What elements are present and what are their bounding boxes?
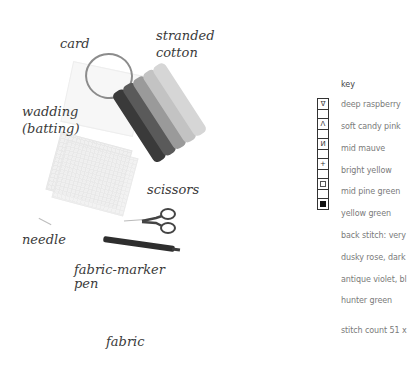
key-title: key xyxy=(341,80,355,89)
fabric-marker-pen-illustration xyxy=(103,236,175,252)
label-cotton: cotton xyxy=(156,45,198,60)
symbol-filled-square-icon xyxy=(318,199,328,209)
key-symbol-column: ∇ Λ И + xyxy=(317,98,329,210)
key-spacer xyxy=(318,130,328,139)
key-backstitch-3: antique violet, bl xyxy=(341,275,407,284)
label-scissors: scissors xyxy=(147,182,199,197)
key-backstitch-2: dusky rose, dark xyxy=(341,253,405,262)
label-pen: pen xyxy=(74,276,98,291)
key-item-yellow-green: yellow green xyxy=(341,209,391,218)
key-backstitch-4: hunter green xyxy=(341,296,392,305)
key-spacer xyxy=(318,110,328,119)
stitch-count: stitch count 51 x xyxy=(341,326,407,335)
label-stranded: stranded xyxy=(156,28,215,43)
label-fabric: fabric xyxy=(106,334,145,349)
symbol-box-icon xyxy=(318,179,328,190)
label-fabric-marker: fabric-marker xyxy=(74,262,165,277)
key-backstitch-1: back stitch: very xyxy=(341,231,406,240)
key-spacer xyxy=(318,190,328,199)
label-card: card xyxy=(60,36,90,51)
key-item-bright-yellow: bright yellow xyxy=(341,166,392,175)
label-batting: (batting) xyxy=(22,121,80,136)
key-item-deep-raspberry: deep raspberry xyxy=(341,100,401,109)
label-wadding: wadding xyxy=(22,104,78,119)
symbol-n-icon: И xyxy=(318,139,328,150)
symbol-plus-icon: + xyxy=(318,159,328,170)
symbol-caret-icon: Λ xyxy=(318,119,328,130)
needle-illustration xyxy=(39,218,52,225)
key-item-mid-mauve: mid mauve xyxy=(341,144,385,153)
scissors-icon xyxy=(122,206,178,236)
symbol-nabla-icon: ∇ xyxy=(318,99,328,110)
key-item-soft-candy-pink: soft candy pink xyxy=(341,122,401,131)
key-item-mid-pine-green: mid pine green xyxy=(341,187,400,196)
key-spacer xyxy=(318,170,328,179)
key-spacer xyxy=(318,150,328,159)
label-needle: needle xyxy=(22,232,66,247)
